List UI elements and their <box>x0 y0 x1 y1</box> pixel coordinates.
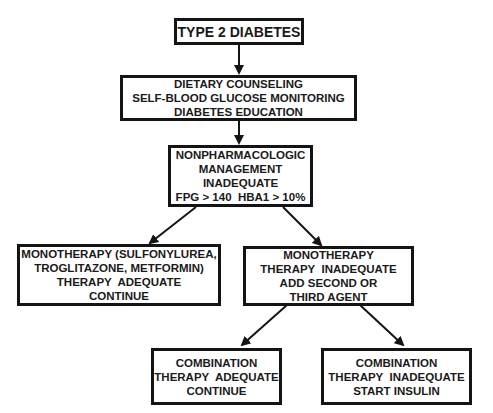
node-text: DIETARY COUNSELING <box>174 77 303 91</box>
node-combination-inadequate: COMBINATION THERAPY INADEQUATE START INS… <box>321 348 472 405</box>
node-text: MONOTHERAPY (SULFONYLUREA, <box>21 247 216 261</box>
node-text: SELF-BLOOD GLUCOSE MONITORING <box>132 91 345 105</box>
node-text: TYPE 2 DIABETES <box>178 24 301 40</box>
node-monotherapy-adequate: MONOTHERAPY (SULFONYLUREA, TROGLITAZONE,… <box>17 244 221 306</box>
arrow-nonpharm-to-mono-adequate <box>150 207 196 243</box>
node-text: TROGLITAZONE, METFORMIN) <box>34 261 204 275</box>
node-text: START INSULIN <box>353 384 440 398</box>
node-text: FPG > 140 HBA1 > 10% <box>176 190 306 204</box>
node-type-2-diabetes: TYPE 2 DIABETES <box>174 18 304 45</box>
node-combination-adequate: COMBINATION THERAPY ADEQUATE CONTINUE <box>151 348 282 405</box>
node-lifestyle-interventions: DIETARY COUNSELING SELF-BLOOD GLUCOSE MO… <box>120 75 357 121</box>
node-text: COMBINATION <box>356 356 438 370</box>
node-text: COMBINATION <box>176 356 258 370</box>
node-text: CONTINUE <box>89 289 149 303</box>
arrow-mono-inadequate-to-combo-adequate <box>242 305 287 345</box>
node-text: INADEQUATE <box>203 176 278 190</box>
node-text: MONOTHERAPY <box>283 248 374 262</box>
node-text: THERAPY ADEQUATE <box>57 275 181 289</box>
node-text: THIRD AGENT <box>289 290 367 304</box>
node-text: DIABETES EDUCATION <box>174 105 303 119</box>
node-text: NONPHARMACOLOGIC <box>176 148 306 162</box>
node-text: THERAPY ADEQUATE <box>154 370 278 384</box>
arrow-mono-inadequate-to-combo-inadequate <box>360 305 403 345</box>
node-nonpharmacologic-inadequate: NONPHARMACOLOGIC MANAGEMENT INADEQUATE F… <box>168 145 313 207</box>
node-monotherapy-inadequate: MONOTHERAPY THERAPY INADEQUATE ADD SECON… <box>243 246 414 306</box>
node-text: CONTINUE <box>186 384 246 398</box>
node-text: ADD SECOND OR <box>280 276 378 290</box>
node-text: THERAPY INADEQUATE <box>260 262 396 276</box>
node-text: MANAGEMENT <box>199 162 283 176</box>
arrow-nonpharm-to-mono-inadequate <box>283 207 321 245</box>
node-text: THERAPY INADEQUATE <box>328 370 464 384</box>
